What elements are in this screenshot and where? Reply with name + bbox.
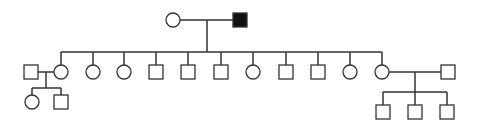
pedigree-chart [0, 0, 477, 127]
female-individual [25, 95, 39, 109]
male-individual [279, 65, 293, 79]
female-individual [375, 65, 389, 79]
female-individual [117, 65, 131, 79]
female-individual [86, 65, 100, 79]
female-individual [54, 65, 68, 79]
male-individual [441, 65, 455, 79]
male-individual [408, 105, 422, 119]
male-individual [54, 95, 68, 109]
male-individual [149, 65, 163, 79]
female-individual [343, 65, 357, 79]
male-individual [440, 105, 454, 119]
male-individual [24, 65, 38, 79]
female-individual [166, 13, 180, 27]
male-individual [181, 65, 195, 79]
male-individual [376, 105, 390, 119]
male-individual [214, 65, 228, 79]
female-individual [246, 65, 260, 79]
sibling-drops [61, 52, 382, 65]
affected-male-individual [233, 13, 247, 27]
male-individual [311, 65, 325, 79]
